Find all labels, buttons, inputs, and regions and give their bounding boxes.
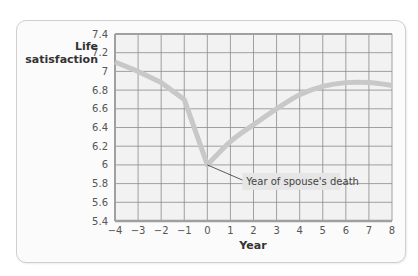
line-chart: Year of spouse's death 7.47.276.86.66.46… (0, 0, 418, 276)
x-axis-ticks: −4−3−2−1012345678 (108, 225, 396, 236)
y-axis-label-line1: Life (75, 40, 98, 53)
y-tick-label: 6.6 (92, 103, 108, 114)
x-tick-label: 3 (273, 225, 279, 236)
y-tick-label: 5.8 (92, 178, 108, 189)
x-tick-label: −3 (131, 225, 146, 236)
x-tick-label: 2 (250, 225, 256, 236)
x-tick-label: 8 (389, 225, 395, 236)
y-tick-label: 6.4 (92, 122, 108, 133)
x-tick-label: 4 (296, 225, 302, 236)
y-tick-label: 5.6 (92, 197, 108, 208)
y-tick-label: 7.4 (92, 29, 108, 40)
y-tick-label: 6.8 (92, 85, 108, 96)
y-axis-label-line2: satisfaction (25, 53, 98, 66)
x-tick-label: 5 (320, 225, 326, 236)
y-tick-label: 6.2 (92, 141, 108, 152)
x-tick-label: −1 (177, 225, 192, 236)
y-tick-label: 5.4 (92, 216, 108, 227)
x-tick-label: 0 (204, 225, 210, 236)
x-tick-label: −2 (154, 225, 169, 236)
x-tick-label: 6 (343, 225, 349, 236)
y-tick-label: 6 (102, 159, 108, 170)
x-tick-label: 1 (227, 225, 233, 236)
y-tick-label: 7 (102, 66, 108, 77)
x-tick-label: 7 (366, 225, 372, 236)
x-axis-label: Year (238, 239, 267, 252)
annotation-label: Year of spouse's death (245, 176, 359, 187)
x-tick-label: −4 (108, 225, 123, 236)
